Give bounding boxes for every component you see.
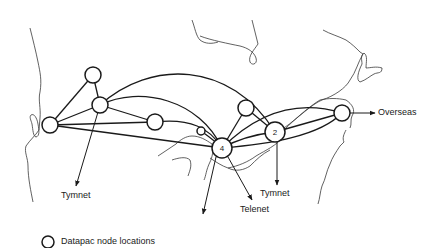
- node-4-label: 4: [220, 144, 225, 153]
- node-2-label: 2: [273, 128, 278, 137]
- node-circle-small: [197, 127, 205, 135]
- node-circle: [42, 117, 58, 133]
- label-telenet: Telenet: [240, 204, 269, 214]
- vancouver-island: [30, 115, 39, 137]
- legend-node-icon: [42, 236, 54, 248]
- node-circle: [334, 105, 350, 121]
- nova-scotia: [318, 130, 346, 204]
- legend-label: Datapac node locations: [61, 236, 155, 246]
- hudson-bay-coast: [200, 20, 258, 64]
- newfoundland: [358, 53, 382, 82]
- node-circle: [238, 100, 254, 116]
- arrow-telenet: [228, 157, 252, 200]
- network-map: 4 2: [0, 0, 435, 248]
- label-tymnet-west: Tymnet: [61, 190, 91, 200]
- label-overseas: Overseas: [378, 107, 417, 117]
- arrow-south: [203, 157, 216, 214]
- hudson-bay-west: [192, 20, 218, 43]
- node-circle: [147, 114, 163, 130]
- node-circle: [92, 97, 108, 113]
- arrow-tymnet-west: [76, 112, 98, 186]
- node-circle: [85, 67, 101, 83]
- label-tymnet-east: Tymnet: [260, 188, 290, 198]
